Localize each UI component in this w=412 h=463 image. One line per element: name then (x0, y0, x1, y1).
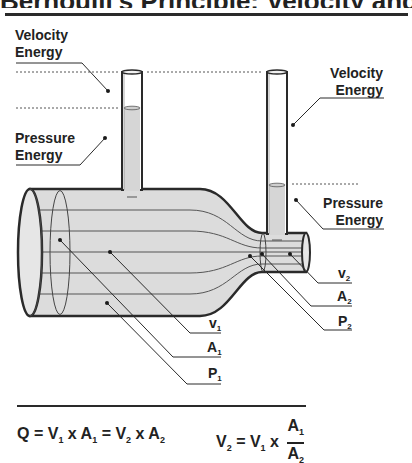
left-piezometer-tube (122, 70, 142, 197)
symbol-base: v (338, 265, 346, 281)
formula-operator: = (102, 425, 111, 442)
symbol-base: P (208, 365, 217, 381)
symbol-sub: 2 (347, 297, 351, 306)
formula-sub: 1 (92, 435, 97, 445)
symbol-base: A (337, 288, 347, 304)
formula-term: A (287, 417, 299, 434)
formula-term: A (148, 425, 160, 442)
formula-term: V (250, 433, 261, 450)
label-line: Velocity (15, 27, 68, 44)
symbol-base: A (207, 339, 217, 355)
formula-term: V (48, 425, 59, 442)
formula-operator: x (68, 425, 77, 442)
v2-label: v2 (338, 266, 350, 286)
a1-label: A1 (207, 340, 222, 360)
area-ratio-fraction: A1 A2 (287, 417, 304, 463)
formula-operator: = (236, 433, 245, 450)
formula-sub: 1 (58, 435, 63, 445)
formula-term: A (287, 445, 299, 462)
label-line: Energy (323, 212, 383, 229)
p2-label: P2 (338, 314, 352, 334)
fraction-bar (287, 442, 304, 444)
fraction-denominator: A2 (287, 445, 304, 463)
fraction-numerator: A1 (287, 417, 304, 441)
formula-sub: 1 (299, 427, 304, 437)
formula-sub: 2 (299, 455, 304, 463)
symbol-sub: 2 (347, 322, 351, 331)
formula-term: V (216, 433, 227, 450)
p1-label: P1 (208, 366, 222, 386)
formula-divider (17, 405, 306, 407)
left-pressure-energy-label: Pressure Energy (15, 130, 75, 164)
velocity-equation: V2 = V1 x A1 A2 (216, 417, 304, 463)
symbol-base: P (338, 313, 347, 329)
symbol-sub: 1 (217, 324, 221, 333)
formula-term: V (115, 425, 126, 442)
right-pressure-energy-label: Pressure Energy (323, 195, 383, 229)
v1-label: v1 (209, 316, 221, 336)
right-piezometer-tube (267, 70, 287, 240)
formula-operator: = (34, 425, 43, 442)
symbol-sub: 1 (217, 374, 221, 383)
formula-operator: x (270, 433, 279, 450)
formula-term: Q (17, 425, 29, 442)
symbol-sub: 2 (346, 274, 350, 283)
left-velocity-energy-label: Velocity Energy (15, 27, 68, 61)
formula-sub: 2 (227, 443, 232, 453)
energy-level-lines (16, 72, 360, 184)
formula-sub: 2 (126, 435, 131, 445)
formula-term: A (81, 425, 93, 442)
formula-operator: x (136, 425, 145, 442)
formula-sub: 1 (261, 443, 266, 453)
formula-sub: 2 (160, 435, 165, 445)
symbol-base: v (209, 315, 217, 331)
label-line: Energy (15, 147, 75, 164)
label-line: Pressure (15, 130, 75, 147)
symbol-sub: 1 (217, 348, 221, 357)
label-line: Energy (330, 82, 383, 99)
a2-label: A2 (337, 289, 352, 309)
label-line: Energy (15, 44, 68, 61)
label-line: Velocity (330, 65, 383, 82)
label-line: Pressure (323, 195, 383, 212)
right-velocity-energy-label: Velocity Energy (330, 65, 383, 99)
continuity-equation: Q = V1 x A1 = V2 x A2 (17, 425, 165, 445)
